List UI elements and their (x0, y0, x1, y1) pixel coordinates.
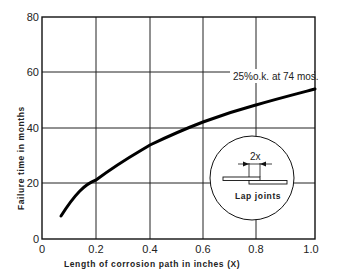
lap-joint-inset: 2x Lap joints (210, 136, 294, 220)
inset-dimension: 2x (250, 151, 261, 162)
svg-text:80: 80 (27, 11, 39, 23)
svg-text:40: 40 (27, 122, 39, 134)
svg-text:1.0: 1.0 (303, 243, 318, 255)
svg-text:20: 20 (27, 177, 39, 189)
svg-text:0.6: 0.6 (195, 243, 210, 255)
x-axis-ticks: 0 0.2 0.4 0.6 0.8 1.0 (39, 243, 319, 255)
svg-text:0.4: 0.4 (142, 243, 157, 255)
annotation-text: 25%o.k. at 74 mos. (233, 71, 319, 82)
inset-title: Lap joints (235, 191, 281, 201)
y-axis-label: Failure time in months (16, 106, 26, 210)
svg-text:0.2: 0.2 (88, 243, 103, 255)
y-axis-ticks: 80 60 40 20 0 (27, 11, 39, 245)
svg-text:60: 60 (27, 66, 39, 78)
svg-text:0.8: 0.8 (248, 243, 263, 255)
x-axis-label: Length of corrosion path in inches (X) (64, 259, 240, 269)
chart: 80 60 40 20 0 0 0.2 0.4 0.6 0.8 1.0 Leng… (0, 0, 337, 278)
svg-text:0: 0 (39, 243, 45, 255)
